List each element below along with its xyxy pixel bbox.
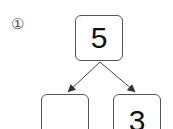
part-box-right: 3 xyxy=(113,94,161,129)
arrow-right xyxy=(100,62,134,91)
whole-value: 5 xyxy=(91,21,108,55)
part-box-left[interactable] xyxy=(41,94,89,129)
part-value-right: 3 xyxy=(129,104,146,129)
arrow-left xyxy=(69,62,100,91)
whole-box: 5 xyxy=(75,15,123,61)
